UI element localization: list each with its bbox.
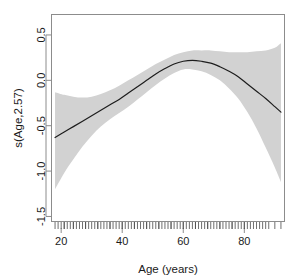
y-tick-label: 0.0 [35,73,47,88]
x-tick-label: 20 [55,235,67,247]
x-tick-label: 80 [238,235,250,247]
x-tick-label: 60 [177,235,189,247]
y-tick-label: -1.0 [35,162,47,181]
x-axis-title: Age (years) [138,263,198,275]
y-tick-label: -0.5 [35,116,47,135]
y-tick-label: 0.5 [35,27,47,42]
x-axis: 20406080 [55,228,250,247]
plot-svg: 0.50.0-0.5-1.0-1.5 20406080 Age (years) … [0,0,304,280]
rug-plot [55,222,281,229]
y-axis: 0.50.0-0.5-1.0-1.5 [35,27,51,226]
gam-smooth-plot: 0.50.0-0.5-1.0-1.5 20406080 Age (years) … [0,0,304,280]
y-axis-title: s(Age,2.57) [12,88,24,148]
x-tick-label: 40 [116,235,128,247]
y-tick-label: -1.5 [35,207,47,226]
confidence-band [55,43,281,189]
